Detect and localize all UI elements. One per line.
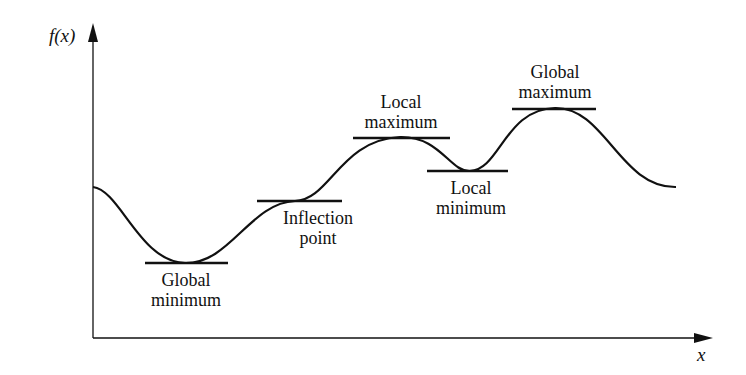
critical-points-diagram: f(x) x Global minimum Inflection point L… [0,0,746,375]
y-axis [88,23,98,338]
x-axis-label: x [697,344,705,366]
label-global-minimum: Global minimum [151,270,221,310]
x-axis [93,333,713,343]
y-axis-arrow-icon [88,23,98,42]
label-local-minimum: Local minimum [436,178,506,218]
label-inflection-point: Inflection point [283,208,353,248]
diagram-canvas [0,0,746,375]
x-axis-arrow-icon [694,333,713,343]
label-global-maximum: Global maximum [519,62,592,102]
y-axis-label: f(x) [49,25,75,47]
label-local-maximum: Local maximum [365,92,438,132]
